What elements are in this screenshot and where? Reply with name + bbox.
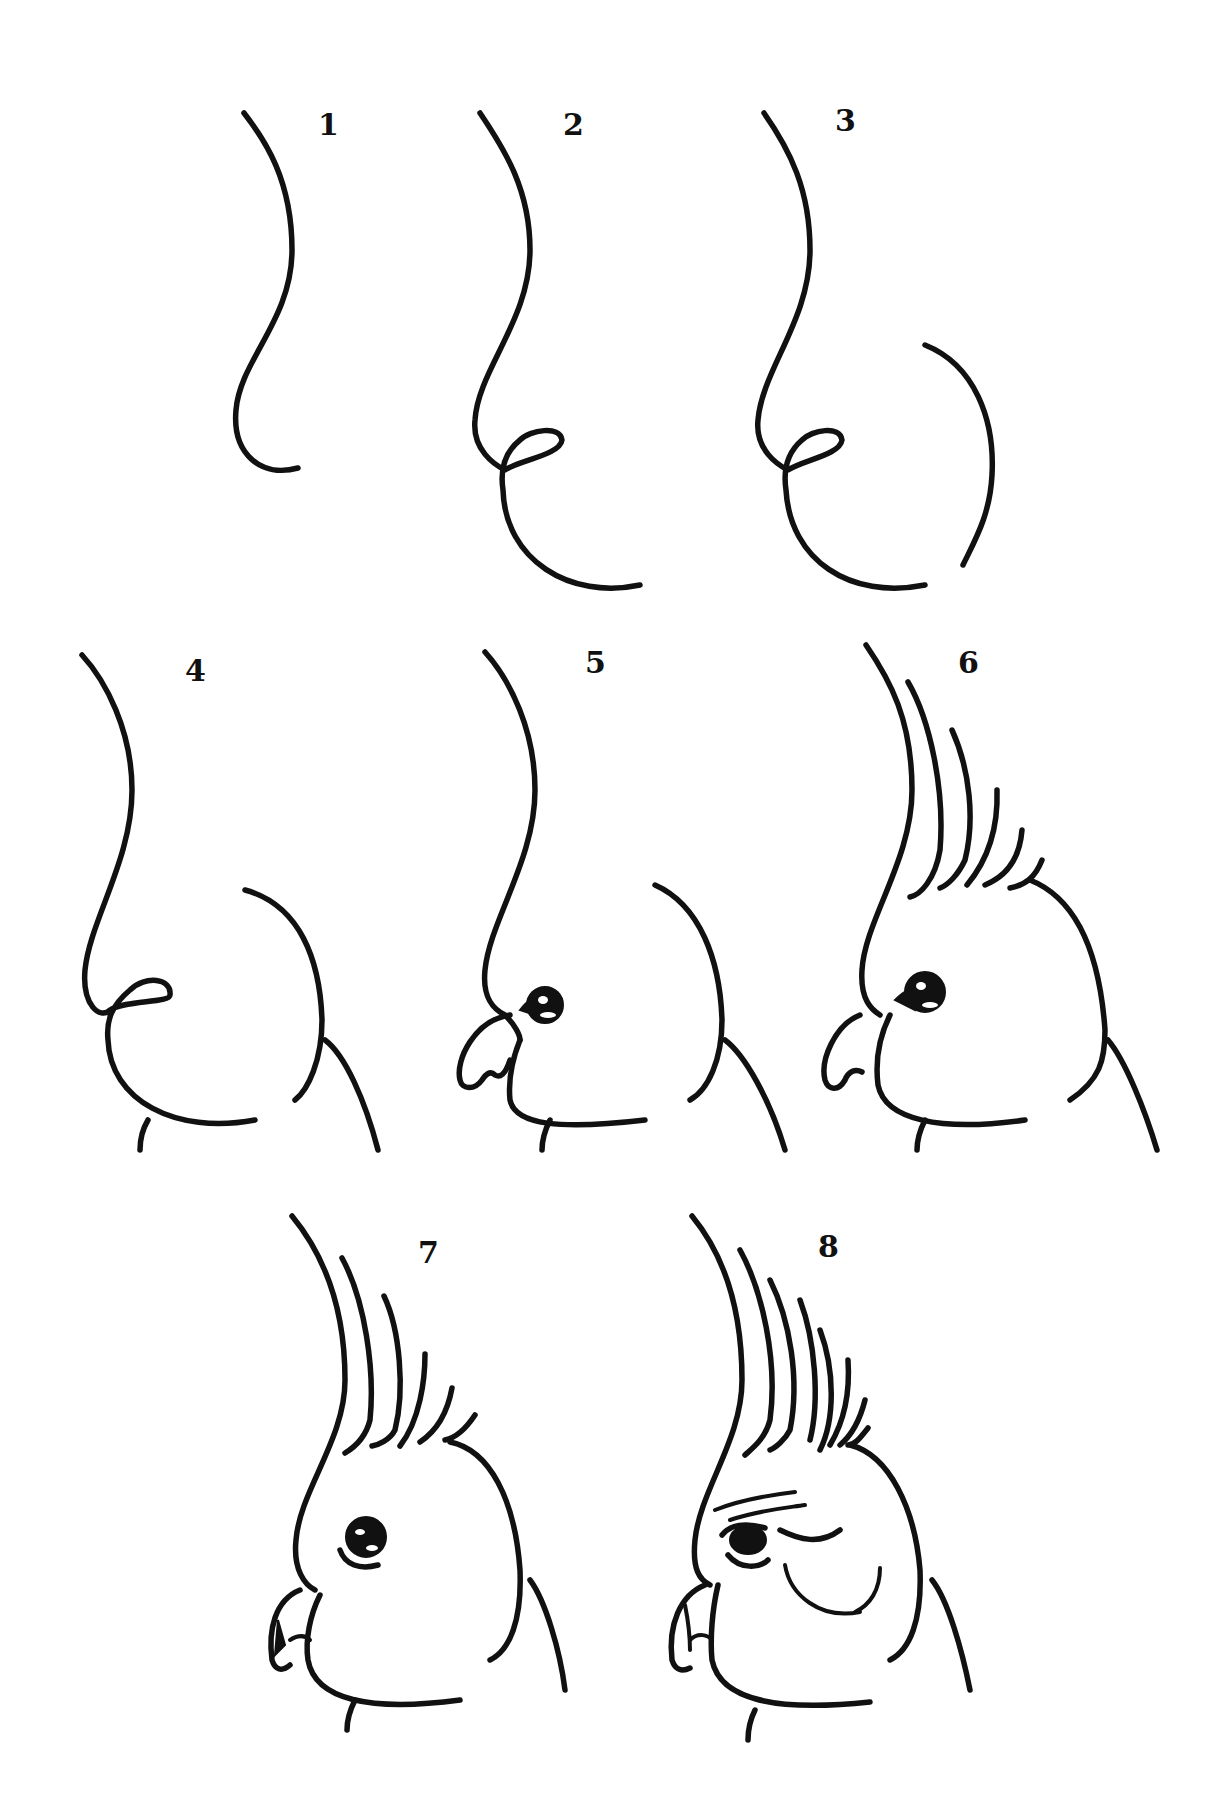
step-number-7: 7 — [418, 1238, 439, 1268]
step-6-drawing — [824, 645, 1157, 1150]
step-3-drawing — [758, 113, 993, 588]
step-4-drawing — [82, 655, 378, 1150]
step-number-8: 8 — [818, 1232, 839, 1262]
step-number-6: 6 — [958, 648, 979, 678]
step-number-1: 1 — [318, 110, 339, 140]
drawing-sheet: 1 2 3 4 5 6 7 8 — [0, 0, 1232, 1801]
step-number-2: 2 — [563, 110, 584, 140]
step-5-drawing — [459, 652, 785, 1150]
step-number-4: 4 — [185, 656, 206, 686]
step-1-drawing — [236, 113, 298, 470]
steps-illustration — [0, 0, 1232, 1801]
step-number-5: 5 — [585, 648, 606, 678]
step-2-drawing — [475, 113, 640, 588]
step-7-drawing — [271, 1216, 565, 1730]
step-number-3: 3 — [835, 106, 856, 136]
step-8-drawing — [671, 1216, 970, 1740]
